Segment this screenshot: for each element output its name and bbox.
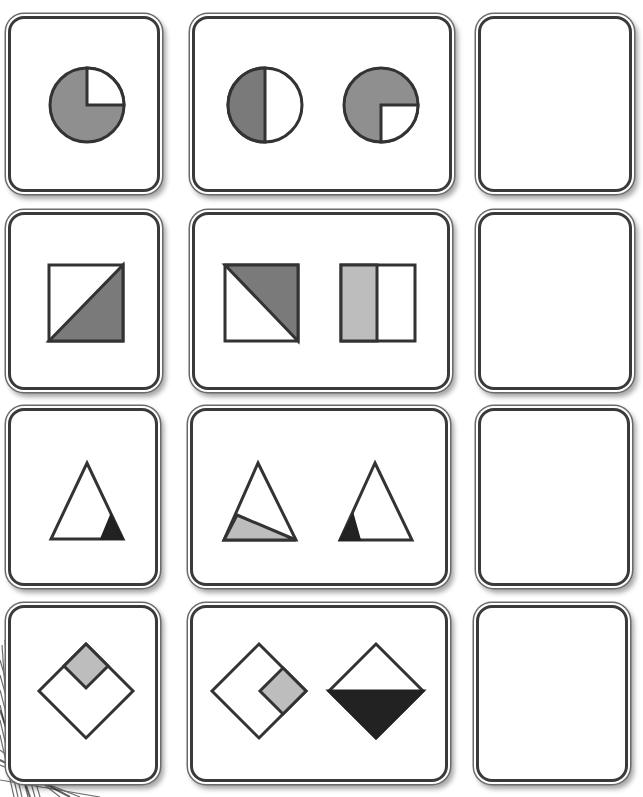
row2-answer-card[interactable]: [478, 212, 632, 390]
rectangle-half-icon: [341, 265, 415, 341]
pie-three-quarter-rotated-icon: [344, 68, 418, 142]
row3-example-card: [8, 408, 158, 586]
row3-pair-card: [190, 408, 448, 586]
diamond-bottom-half-icon: [329, 644, 423, 738]
triangle-wedge-icon: [224, 463, 296, 540]
square-upper-triangle-icon: [225, 265, 298, 341]
pie-three-quarter-icon: [11, 19, 157, 189]
row2-pair-shapes: [195, 215, 447, 387]
triangle-corner-icon: [11, 411, 155, 583]
row4-answer-card[interactable]: [476, 605, 628, 782]
row1-example-card: [8, 16, 160, 192]
row1-pair-shapes: [195, 19, 449, 189]
diamond-top-icon: [11, 608, 155, 779]
row1-pair-card: [192, 16, 452, 192]
row4-example-card: [8, 605, 158, 782]
row4-pair-card: [190, 605, 448, 782]
diamond-right-icon: [212, 644, 306, 738]
row1-answer-card[interactable]: [478, 16, 632, 192]
row4-pair-shapes: [193, 608, 445, 779]
half-circle-icon: [228, 68, 302, 142]
row3-pair-shapes: [193, 411, 445, 583]
triangle-left-corner-icon: [340, 463, 412, 540]
square-diagonal-icon: [11, 215, 157, 387]
row2-example-card: [8, 212, 160, 390]
row2-pair-card: [192, 212, 450, 390]
row3-answer-card[interactable]: [478, 408, 630, 586]
